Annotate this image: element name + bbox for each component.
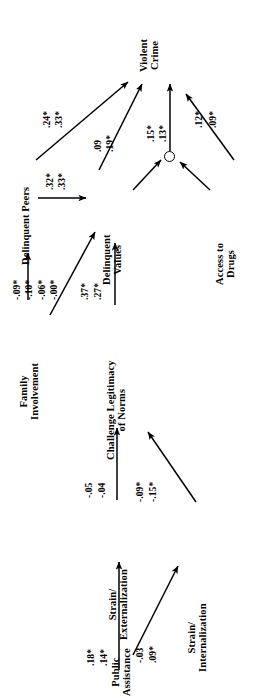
node-delinquent-values: Delinquent Values: [101, 234, 124, 285]
node-delinquent-peers-line1: Delinquent Peers: [20, 187, 31, 265]
node-strain-internalization-line2: Internalization: [197, 603, 208, 672]
coef-strainint-legitimacy-2: -.15*: [148, 482, 158, 502]
node-public-assistance-line2: Assistance: [121, 648, 132, 696]
node-strain-externalization-line1: Strain/: [107, 569, 118, 640]
node-mediator-circle: [164, 151, 175, 162]
coef-public-strainint-1: -.03: [135, 648, 145, 663]
node-violent-crime-line1: Violent: [138, 39, 149, 72]
coef-strainint-legitimacy-1: -.09*: [135, 482, 145, 502]
node-family-involvement-line2: Involvement: [29, 363, 40, 420]
coef-drugs-crime-2: .09*: [208, 111, 218, 128]
coef-peers-values-1: .32*: [45, 173, 55, 190]
node-strain-internalization-line1: Strain/: [186, 603, 197, 672]
node-violent-crime-line2: Crime: [149, 39, 160, 72]
coef-strainext-legitimacy-1: -.05: [84, 483, 94, 498]
coef-family-values-1: -.06*: [37, 280, 47, 300]
node-delinquent-values-line1: Delinquent: [101, 234, 112, 285]
node-access-to-drugs: Access to Drugs: [214, 243, 237, 285]
path-diagram: Violent Crime Delinquent Peers Delinquen…: [0, 0, 258, 700]
coef-family-values-2: -.00*: [49, 280, 59, 300]
node-family-involvement: Family Involvement: [18, 363, 41, 420]
coef-legitimacy-values-1: .37*: [80, 283, 90, 300]
coef-strainext-legitimacy-2: -.04: [97, 483, 107, 498]
coef-mediator-crime-2: .13*: [158, 125, 168, 142]
coef-family-peers-1: -.09*: [12, 280, 22, 300]
node-access-to-drugs-line1: Access to: [214, 243, 225, 285]
coef-public-strainint-2: .09*: [148, 646, 158, 663]
node-family-involvement-line1: Family: [18, 363, 29, 420]
edge-public-to-strain-int: [133, 566, 178, 655]
coef-legitimacy-values-2: .27*: [93, 283, 103, 300]
edge-values-to-mediator: [133, 160, 161, 190]
node-access-to-drugs-line2: Drugs: [225, 243, 236, 285]
coef-mediator-crime-1: .15*: [146, 125, 156, 142]
coef-peers-crime-1: .24*: [42, 111, 52, 128]
coef-drugs-crime-1: .12*: [194, 111, 204, 128]
edge-family-to-values: [50, 232, 95, 315]
coef-peers-values-2: .33*: [57, 173, 67, 190]
coef-public-strainext-2: .14*: [99, 649, 109, 666]
node-public-assistance: Public Assistance: [110, 648, 133, 696]
node-strain-externalization: Strain/ Externalization: [107, 569, 130, 640]
node-delinquent-values-line2: Values: [112, 234, 123, 285]
coef-values-crime-1: .09: [93, 140, 103, 152]
coef-values-crime-2: .19*: [105, 135, 115, 152]
node-challenge-legitimacy-line2: of Norms: [116, 360, 127, 460]
edge-drugs-to-mediator: [180, 162, 210, 190]
node-challenge-legitimacy-line1: Challenge Legitimacy: [105, 360, 116, 460]
coef-family-peers-2: -.10*: [24, 280, 34, 300]
edge-values-to-crime: [99, 84, 142, 170]
node-strain-externalization-line2: Externalization: [118, 569, 129, 640]
node-challenge-legitimacy: Challenge Legitimacy of Norms: [105, 360, 128, 460]
coef-peers-crime-2: .33*: [54, 111, 64, 128]
node-public-assistance-line1: Public: [110, 648, 121, 696]
coef-public-strainext-1: .18*: [86, 649, 96, 666]
node-delinquent-peers: Delinquent Peers: [20, 187, 31, 265]
node-violent-crime: Violent Crime: [138, 39, 161, 72]
node-strain-internalization: Strain/ Internalization: [186, 603, 209, 672]
